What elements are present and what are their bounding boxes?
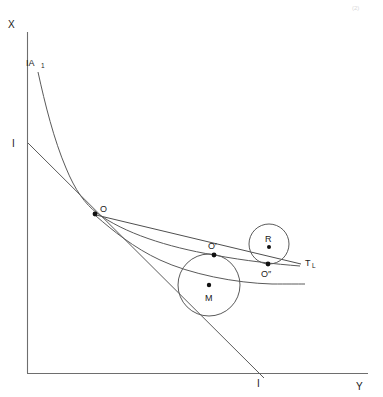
circle-m-label: M <box>205 293 213 303</box>
point-o-marker <box>93 212 98 217</box>
diagram-svg: (2) X Y I I IA 1 <box>0 0 383 397</box>
point-o-double-prime-marker <box>266 262 271 267</box>
point-o-double-prime-label: O″ <box>261 269 272 279</box>
point-o-prime-marker <box>212 253 217 258</box>
circle-r-label: R <box>265 234 272 244</box>
budget-intercept-vertical-label: I <box>12 138 15 149</box>
tangent-line-label-group: T L <box>305 258 316 269</box>
indifference-curve-label-group: IA 1 <box>26 58 45 69</box>
budget-intercept-horizontal-label: I <box>257 378 260 389</box>
point-r-marker <box>267 245 271 249</box>
y-axis-label: X <box>8 19 15 30</box>
tangent-line-label: T <box>305 258 311 268</box>
indifference-curve-label: IA <box>26 58 35 68</box>
corner-mark-label: (2) <box>352 5 359 11</box>
point-o-label: O <box>100 204 107 214</box>
circle-r <box>249 224 289 264</box>
point-o-prime-label: O′ <box>208 241 217 251</box>
x-axis-label: Y <box>356 381 363 392</box>
indifference-curve-subscript: 1 <box>41 62 45 69</box>
indifference-curve-ia1 <box>38 72 300 266</box>
tangent-line-subscript: L <box>312 262 316 269</box>
axes-group <box>27 32 368 374</box>
diagram-figure: (2) X Y I I IA 1 <box>0 0 383 397</box>
point-m-marker <box>207 283 211 287</box>
transformation-locus-curve <box>96 216 305 284</box>
